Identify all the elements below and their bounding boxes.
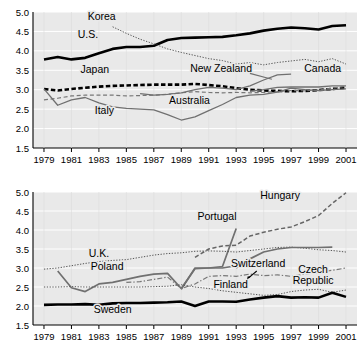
x-tick-label: 1991	[198, 154, 219, 165]
x-tick-label: 1999	[308, 331, 329, 342]
x-tick-label: 1989	[171, 154, 192, 165]
x-tick-label: 1991	[198, 331, 219, 342]
dual-line-chart-figure: 1.52.02.53.03.54.04.55.01979198119831985…	[0, 0, 362, 357]
x-tick-label: 1981	[61, 331, 82, 342]
x-tick-label: 1997	[281, 331, 302, 342]
x-tick-label: 1979	[33, 154, 54, 165]
x-tick-label: 1987	[143, 331, 164, 342]
y-tick-label: 5.0	[16, 187, 29, 198]
x-tick-label: 2001	[335, 331, 356, 342]
y-tick-label: 1.5	[16, 143, 29, 154]
y-tick-label: 4.0	[16, 225, 29, 236]
x-tick-label: 1999	[308, 154, 329, 165]
y-tick-label: 2.5	[16, 104, 29, 115]
series-label-korea: Korea	[88, 10, 116, 22]
series-label-new-zealand: New Zealand	[190, 62, 252, 74]
y-tick-label: 2.5	[16, 282, 29, 293]
series-label-finland: Finland	[213, 278, 248, 290]
x-tick-label: 1979	[33, 331, 54, 342]
y-tick-label: 3.0	[16, 263, 29, 274]
y-tick-label: 2.0	[16, 301, 29, 312]
chart-panel-bottom: 1.52.02.53.03.54.04.55.01979198119831985…	[0, 180, 362, 357]
series-label-u-s: U.S.	[78, 28, 98, 40]
chart-panel-top: 1.52.02.53.03.54.04.55.01979198119831985…	[0, 0, 362, 180]
x-tick-label: 1987	[143, 154, 164, 165]
x-tick-label: 1995	[253, 154, 274, 165]
y-tick-label: 1.5	[16, 320, 29, 331]
x-tick-label: 1985	[116, 154, 137, 165]
series-label-u-k: U.K.	[89, 247, 109, 259]
x-tick-label: 1995	[253, 331, 274, 342]
series-label-japan: Japan	[80, 63, 109, 75]
series-label-poland: Poland	[91, 260, 124, 272]
x-tick-label: 2001	[335, 154, 356, 165]
series-label-canada: Canada	[304, 62, 341, 74]
series-label-australia: Australia	[169, 94, 210, 106]
y-tick-label: 4.5	[16, 26, 29, 37]
series-label-portugal: Portugal	[197, 210, 236, 222]
x-tick-label: 1981	[61, 154, 82, 165]
y-tick-label: 3.0	[16, 84, 29, 95]
series-label-czech-republic: CzechRepublic	[293, 263, 334, 286]
x-tick-label: 1989	[171, 331, 192, 342]
y-tick-label: 4.0	[16, 45, 29, 56]
line-chart-bottom: 1.52.02.53.03.54.04.55.01979198119831985…	[0, 180, 362, 357]
series-label-sweden: Sweden	[94, 303, 132, 315]
y-tick-label: 3.5	[16, 65, 29, 76]
x-tick-label: 1993	[226, 154, 247, 165]
x-tick-label: 1993	[226, 331, 247, 342]
series-label-italy: Italy	[95, 104, 115, 116]
x-tick-label: 1985	[116, 331, 137, 342]
x-tick-label: 1997	[281, 154, 302, 165]
x-tick-label: 1983	[88, 331, 109, 342]
line-chart-top: 1.52.02.53.03.54.04.55.01979198119831985…	[0, 0, 362, 180]
series-label-hungary: Hungary	[260, 189, 300, 201]
x-tick-label: 1983	[88, 154, 109, 165]
series-label-switzerland: Switzerland	[231, 257, 285, 269]
y-tick-label: 4.5	[16, 206, 29, 217]
y-tick-label: 5.0	[16, 7, 29, 18]
y-tick-label: 3.5	[16, 244, 29, 255]
y-tick-label: 2.0	[16, 123, 29, 134]
